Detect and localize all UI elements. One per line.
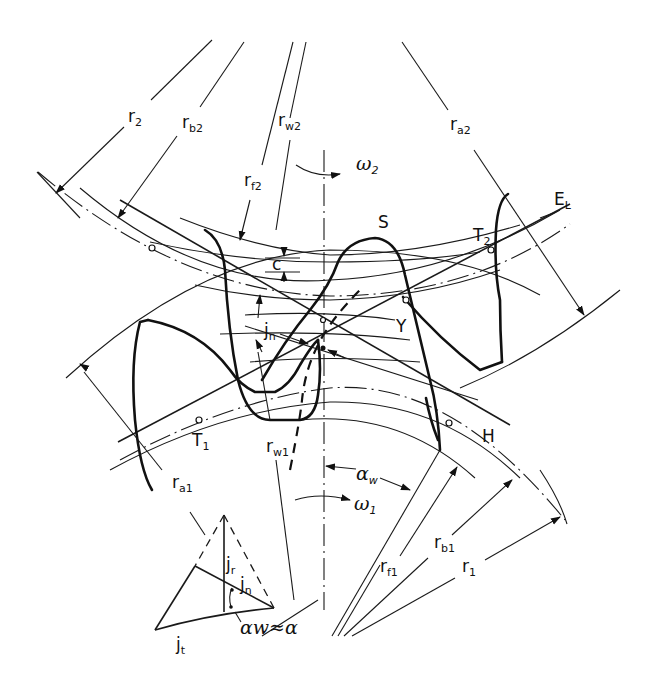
label-rw1: rw1 <box>266 436 289 459</box>
label-H: H <box>482 426 495 446</box>
line-H <box>120 200 510 425</box>
backlash-inset: jr jn jt αw≈α <box>155 515 298 657</box>
label-omega1: ω1 <box>354 492 377 517</box>
label-ra2: ra2 <box>450 114 471 137</box>
label-rf1: rf1 <box>380 556 398 579</box>
labels: r2 rb2 rw2 rf2 ra2 ω2 EL S T2 c jn Y T1 … <box>128 106 572 579</box>
label-EL: EL <box>554 189 572 212</box>
label-alpha-w: αw <box>356 462 378 487</box>
label-rb1: rb1 <box>434 532 455 555</box>
label-jn: jn <box>263 320 276 343</box>
gear-mesh-diagram: r2 rb2 rw2 rf2 ra2 ω2 EL S T2 c jn Y T1 … <box>0 0 653 674</box>
line-of-action <box>118 204 570 442</box>
inset-label-angle: αw≈α <box>240 616 298 638</box>
tooth-profiles <box>133 194 508 490</box>
label-r2: r2 <box>128 106 142 129</box>
gear1-circles <box>66 250 565 520</box>
label-T1: T1 <box>191 430 209 453</box>
label-r1: r1 <box>462 556 476 579</box>
inset-label-jt: jt <box>175 634 186 657</box>
inset-label-jn: jn <box>239 574 252 597</box>
inset-label-jr: jr <box>225 554 236 577</box>
label-ra1: ra1 <box>172 472 193 495</box>
label-rw2: rw2 <box>278 110 301 133</box>
label-rf2: rf2 <box>244 170 262 193</box>
label-c: c <box>272 254 281 274</box>
label-T2: T2 <box>472 225 490 248</box>
label-Y: Y <box>395 316 407 336</box>
label-rb2: rb2 <box>182 112 203 135</box>
label-S: S <box>378 212 389 232</box>
label-omega2: ω2 <box>356 152 379 177</box>
